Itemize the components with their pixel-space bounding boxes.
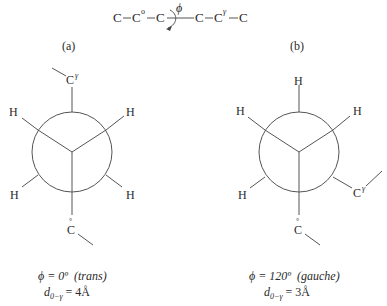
a-h-upper-right: H — [126, 105, 135, 119]
b-h-upper-left: H — [236, 104, 245, 118]
a-h-lower-left: H — [10, 188, 19, 202]
panel-b-label: (b) — [290, 39, 304, 53]
atom-c0-sup: o — [141, 7, 145, 16]
rotation-arrow-icon — [168, 10, 176, 28]
atom-c3: C — [195, 10, 204, 25]
a-caption-phi: ϕ = 0º (trans) — [38, 269, 107, 283]
panel-a: (a) C γ H H H H C ° ϕ = 0º (trans) d0−γ … — [9, 39, 135, 301]
rotation-arrowhead-icon — [166, 26, 172, 31]
b-c0-mark: ° — [296, 217, 299, 226]
atom-c0: C — [132, 10, 141, 25]
phi-symbol: ϕ — [176, 1, 182, 15]
a-h-lower-right: H — [126, 188, 135, 202]
a-cgamma: C — [66, 73, 74, 87]
b-h-upper-right: H — [353, 104, 362, 118]
panel-b: (b) H H H H C γ C ° ϕ = 120º (gauche) d0… — [236, 39, 382, 301]
a-cgamma-sup: γ — [75, 71, 79, 80]
atom-cgamma-sup: γ — [223, 7, 227, 16]
a-c0-mark: ° — [69, 217, 72, 226]
atom-cgamma: C — [214, 10, 223, 25]
a-h-upper-left: H — [9, 105, 18, 119]
a-caption-distance: d0−γ = 4Å — [44, 285, 90, 301]
atom-c1: C — [113, 10, 122, 25]
b-h-lower-left: H — [238, 188, 247, 202]
newman-projection-diagram: C C o C ϕ C C γ C (a) C γ H — [0, 0, 387, 306]
b-cgamma-sup: γ — [362, 184, 366, 193]
atom-c5: C — [239, 10, 248, 25]
backbone-chain: C C o C ϕ C C γ C — [113, 1, 248, 31]
b-caption-distance: d0−γ = 3Å — [264, 285, 310, 301]
b-caption-phi: ϕ = 120º (gauche) — [249, 269, 340, 283]
b-cgamma: C — [353, 186, 361, 200]
atom-c2: C — [156, 10, 165, 25]
b-h-top: H — [294, 74, 303, 88]
panel-a-label: (a) — [62, 39, 75, 53]
